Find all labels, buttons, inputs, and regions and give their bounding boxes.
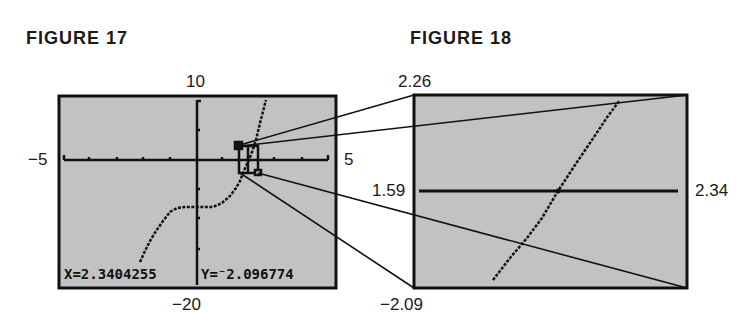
- fig17-trace-x: X=2.3404255: [64, 266, 157, 282]
- fig18-screen: [414, 95, 687, 288]
- fig17-screen: X=2.3404255 Y=⁻2.096774: [59, 96, 336, 288]
- fig17-zoom-box: [235, 142, 261, 175]
- figures-canvas: X=2.3404255 Y=⁻2.096774: [0, 0, 750, 331]
- fig18-root-point: [556, 189, 561, 194]
- fig17-trace-y: Y=⁻2.096774: [201, 266, 294, 282]
